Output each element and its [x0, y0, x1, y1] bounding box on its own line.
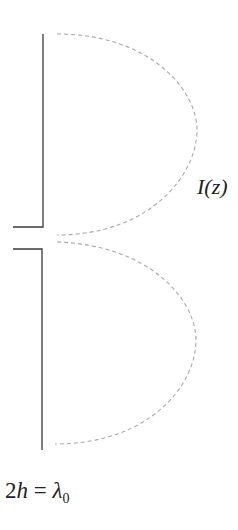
length-number: 2 — [5, 478, 17, 503]
equals-sign: = — [28, 478, 52, 503]
lower-antenna-arm — [13, 249, 42, 450]
dipole-diagram — [0, 0, 238, 530]
wavelength-symbol: λ — [52, 478, 62, 503]
upper-antenna-arm — [13, 34, 43, 227]
length-variable: h — [17, 478, 29, 503]
lower-current-lobe — [55, 242, 196, 444]
length-equation: 2h = λ0 — [5, 478, 69, 507]
wavelength-subscript: 0 — [62, 491, 69, 506]
current-label: I(z) — [197, 174, 228, 200]
upper-current-lobe — [57, 34, 197, 235]
